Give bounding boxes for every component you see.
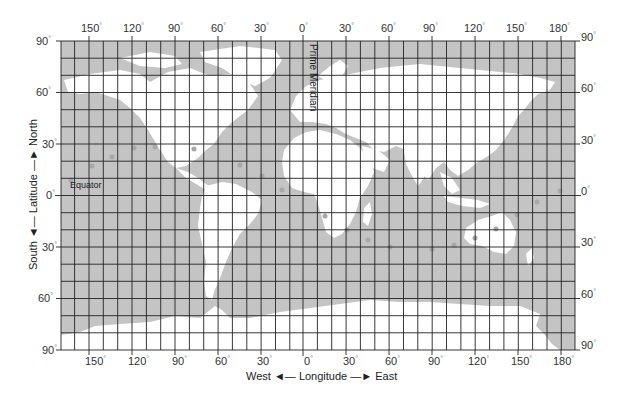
bottom-lon-label: 120° [128,355,149,367]
right-lat-label: 60° [581,82,596,94]
top-lon-label: 30° [254,22,269,34]
top-lon-label: 30° [339,22,354,34]
right-lat-label: 0° [581,185,590,197]
top-lon-label: 90° [423,22,438,34]
west-label: West [246,370,271,382]
bottom-lon-label: 150° [511,355,532,367]
bottom-lon-label: 0° [304,355,313,367]
bottom-lon-label: 30° [257,355,272,367]
top-lon-label: 0° [299,22,308,34]
left-lat-label: 60° [38,292,53,304]
longitude-axis-title: West ◄— Longitude —► East [246,370,397,382]
right-lat-label: 60° [581,288,596,300]
south-label: South [27,241,39,270]
right-lat-label: 90° [581,339,596,351]
left-lat-label: 90° [36,35,51,47]
right-lat-label: 90° [581,31,596,43]
arrow-right-icon: —► [350,370,372,382]
latitude-label: Latitude [27,174,39,213]
top-lon-label: 90° [168,22,183,34]
bottom-lon-label: 120° [468,355,489,367]
top-lon-label: 60° [211,22,226,34]
arrow-left-icon: ◄— [274,370,296,382]
right-lat-label: 30° [581,236,596,248]
arrow-left-icon: ◄— [27,216,39,238]
top-lon-label: 180° [549,22,570,34]
top-lon-label: 150° [81,22,102,34]
bottom-lon-label: 180° [553,355,574,367]
bottom-lon-label: 30° [343,355,358,367]
top-lon-label: 120° [123,22,144,34]
bottom-lon-label: 90° [172,355,187,367]
bottom-lon-label: 90° [428,355,443,367]
arrow-right-icon: —► [27,149,39,171]
prime-meridian-label: Prime Meridian [308,44,319,111]
left-lat-label: 30° [42,241,57,253]
longitude-label: Longitude [299,370,347,382]
bottom-lon-label: 150° [85,355,106,367]
right-lat-label: 30° [581,134,596,146]
top-lon-label: 60° [381,22,396,34]
equator-label: Equator [70,180,102,190]
top-lon-label: 150° [506,22,527,34]
latitude-axis-title: South ◄— Latitude —► North [27,119,39,270]
left-lat-label: 30° [42,138,57,150]
left-lat-label: 0° [46,189,55,201]
left-lat-label: 60° [36,86,51,98]
north-label: North [27,119,39,146]
top-lon-label: 120° [464,22,485,34]
bottom-lon-label: 60° [215,355,230,367]
east-label: East [375,370,397,382]
left-lat-label: 90° [42,344,57,356]
bottom-lon-label: 60° [385,355,400,367]
